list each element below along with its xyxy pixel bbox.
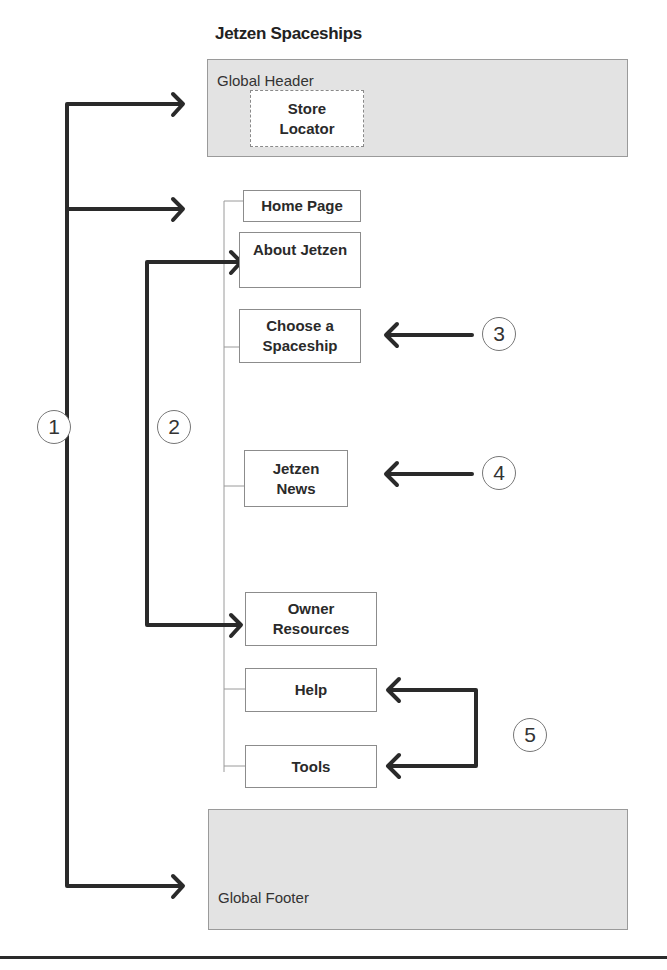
- callout-2: 2: [157, 410, 191, 444]
- callout-1: 1: [37, 410, 71, 444]
- figure-separator: [0, 956, 667, 959]
- global-footer-label: Global Footer: [218, 889, 309, 906]
- page-owner-resources: Owner Resources: [245, 592, 377, 646]
- page-choose-spaceship-label: Choose a Spaceship: [255, 316, 345, 356]
- bracket-2: [147, 262, 240, 625]
- page-owner-resources-label: Owner Resources: [266, 599, 356, 639]
- callout-4: 4: [482, 456, 516, 490]
- page-about-jetzen: About Jetzen: [239, 232, 361, 288]
- page-help-label: Help: [295, 680, 328, 700]
- page-home-label: Home Page: [261, 196, 343, 216]
- page-tools: Tools: [245, 745, 377, 788]
- callout-3: 3: [482, 317, 516, 351]
- page-about-jetzen-label: About Jetzen: [253, 240, 347, 260]
- global-footer-region: Global Footer: [208, 809, 628, 930]
- page-tools-label: Tools: [292, 757, 331, 777]
- bracket-1: [67, 104, 182, 886]
- page-home: Home Page: [243, 190, 361, 222]
- bracket-5: [389, 690, 476, 766]
- page-jetzen-news-label: Jetzen News: [266, 459, 326, 499]
- page-help: Help: [245, 668, 377, 712]
- callout-5: 5: [513, 718, 547, 752]
- page-jetzen-news: Jetzen News: [244, 450, 348, 507]
- page-choose-spaceship: Choose a Spaceship: [239, 309, 361, 363]
